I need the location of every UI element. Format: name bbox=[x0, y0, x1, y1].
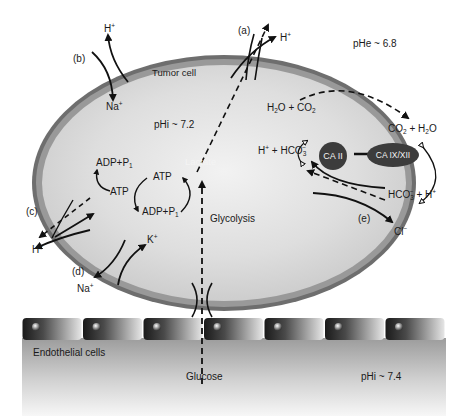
glycolysis-label: Glycolysis bbox=[210, 214, 255, 224]
t: + H bbox=[407, 123, 426, 134]
co2-h2o-extracellular: CO2 + H2O bbox=[388, 124, 437, 136]
adp-pi-text: ADP+P bbox=[96, 157, 129, 168]
adp-pi-bottom-label: ADP+P1 bbox=[142, 207, 179, 219]
transporter-e-label: (e) bbox=[358, 214, 370, 224]
s: 3 bbox=[303, 150, 307, 157]
t: O + CO bbox=[278, 102, 312, 113]
t: HCO bbox=[388, 189, 410, 200]
endothelial-cells-label: Endothelial cells bbox=[33, 348, 105, 358]
carbonic-anhydrase-ix-xii: CA IX/XII bbox=[367, 143, 419, 167]
tumor-cell-label: Tumor cell bbox=[152, 68, 196, 78]
na-ion-b: Na+ bbox=[106, 101, 123, 112]
transporter-d-label: (d) bbox=[72, 267, 84, 277]
atp-left-label: ATP bbox=[110, 187, 129, 197]
k-ion-d-text: K bbox=[147, 234, 154, 245]
adp-pi-top-label: ADP+P1 bbox=[96, 158, 133, 170]
carbonic-anhydrase-ii: CA II bbox=[319, 142, 347, 170]
na-ion-d: Na+ bbox=[77, 283, 94, 294]
endothelial-nucleus bbox=[32, 323, 40, 331]
charge: + bbox=[287, 31, 291, 38]
endothelial-cell bbox=[265, 318, 324, 340]
glucose-label: Glucose bbox=[186, 372, 223, 382]
charge: − bbox=[403, 225, 407, 232]
endothelial-cell bbox=[386, 318, 445, 340]
endothelial-nucleus bbox=[395, 323, 403, 331]
endothelial-cell bbox=[204, 318, 263, 340]
endothelial-nucleus bbox=[93, 323, 101, 331]
transporter-b-label: (b) bbox=[73, 54, 85, 64]
transporter-a-label: (a) bbox=[238, 26, 250, 36]
charge: + bbox=[111, 22, 115, 29]
atp-top-label: ATP bbox=[153, 172, 172, 182]
s: − bbox=[302, 144, 306, 151]
cl-ion-e: Cl− bbox=[394, 226, 407, 237]
h-ion-b: H+ bbox=[104, 23, 115, 34]
blood-ph-label: pHi ~ 7.4 bbox=[361, 372, 401, 382]
s: + bbox=[432, 188, 436, 195]
diagram-canvas: CA II CA IX/XII Tumor cell pHi ~ 7.2 pHe… bbox=[0, 0, 464, 418]
t: + HCO bbox=[269, 145, 303, 156]
h-ion-a: H+ bbox=[280, 32, 291, 43]
endothelial-cell bbox=[325, 318, 384, 340]
h-ion-c: H+ bbox=[32, 244, 43, 255]
k-ion-d: K+ bbox=[147, 234, 157, 245]
adp-pi-text: ADP+P bbox=[142, 206, 175, 217]
lactate-label: Lactate bbox=[185, 157, 216, 167]
hco3-h-extracellular: HCO3− + H+ bbox=[388, 189, 436, 202]
na-ion-b-text: Na bbox=[106, 101, 119, 112]
subscript: 1 bbox=[175, 211, 179, 218]
t: + H bbox=[414, 189, 433, 200]
s: 2 bbox=[312, 107, 316, 114]
endothelial-cell bbox=[144, 318, 203, 340]
charge: + bbox=[154, 233, 158, 240]
h-hco3-intracellular: H+ + HCO3− bbox=[258, 145, 306, 158]
extracellular-ph-label: pHe ~ 6.8 bbox=[353, 39, 397, 49]
endothelial-cell bbox=[23, 318, 82, 340]
endothelial-cell bbox=[83, 318, 142, 340]
na-ion-d-text: Na bbox=[77, 283, 90, 294]
subscript: 1 bbox=[129, 162, 133, 169]
endothelial-nucleus bbox=[274, 323, 282, 331]
endothelial-nucleus bbox=[153, 323, 161, 331]
endothelial-nucleus bbox=[335, 323, 343, 331]
transporter-c-label: (c) bbox=[26, 207, 38, 217]
intracellular-ph-label: pHi ~ 7.2 bbox=[154, 120, 194, 130]
endothelial-nucleus bbox=[214, 323, 222, 331]
t: O bbox=[429, 123, 437, 134]
endothelial-layer bbox=[23, 318, 445, 340]
charge: + bbox=[90, 282, 94, 289]
charge: + bbox=[39, 243, 43, 250]
h2o-co2-intracellular: H2O + CO2 bbox=[267, 103, 316, 115]
t: CO bbox=[388, 123, 403, 134]
charge: + bbox=[119, 100, 123, 107]
